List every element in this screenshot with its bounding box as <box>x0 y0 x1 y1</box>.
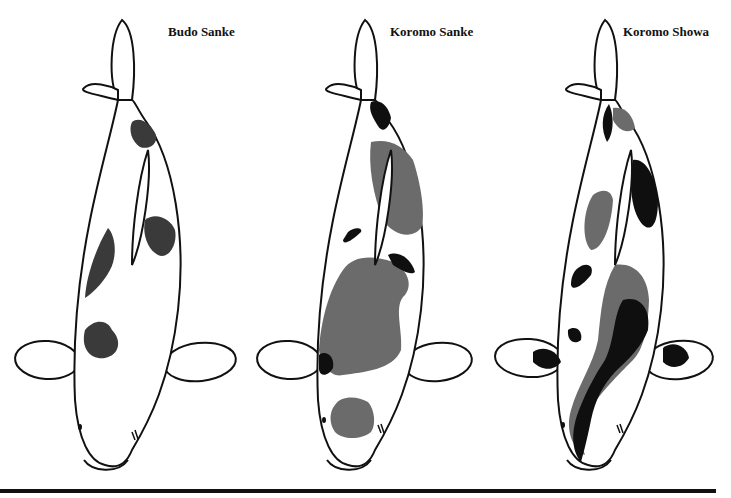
koi-budo-sanke-illustration <box>0 0 245 485</box>
koi-koromo-showa-illustration <box>483 0 731 485</box>
baseline-rule <box>0 489 716 493</box>
koi-koromo-sanke-illustration <box>243 0 488 485</box>
